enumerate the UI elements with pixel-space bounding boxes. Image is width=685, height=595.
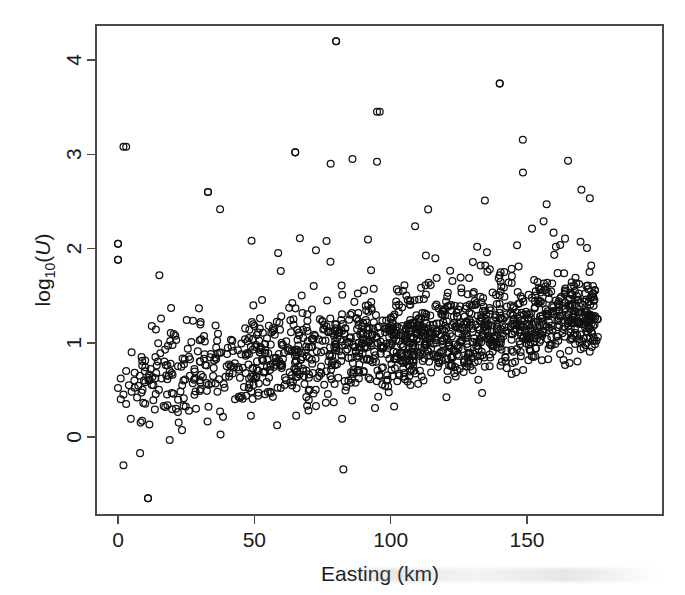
- data-point: [217, 431, 224, 438]
- data-point: [562, 235, 569, 242]
- data-point: [550, 229, 557, 236]
- data-point: [314, 375, 321, 382]
- data-point: [304, 317, 311, 324]
- data-point: [374, 158, 381, 165]
- data-point: [520, 169, 527, 176]
- data-point: [372, 405, 379, 412]
- data-point: [481, 363, 488, 370]
- data-point: [549, 280, 556, 287]
- data-point: [204, 418, 211, 425]
- x-axis-ticks: [118, 515, 527, 524]
- x-tick-label: 150: [509, 528, 544, 551]
- data-point: [586, 195, 593, 202]
- x-tick-label: 50: [243, 528, 266, 551]
- data-point: [324, 297, 331, 304]
- x-axis-tick-labels: 050100150: [112, 528, 544, 551]
- plot-canvas: 050100150 01234 Easting (km) log10(U): [0, 0, 685, 595]
- data-point: [324, 391, 331, 398]
- data-point: [259, 297, 266, 304]
- y-tick-label: 4: [62, 54, 85, 66]
- data-point: [137, 450, 144, 457]
- data-point: [519, 136, 526, 143]
- data-point: [433, 275, 440, 282]
- data-point: [501, 293, 508, 300]
- data-point: [348, 310, 355, 317]
- data-point: [250, 302, 257, 309]
- y-tick-label: 0: [62, 431, 85, 443]
- y-tick-label: 1: [62, 337, 85, 349]
- data-point: [338, 282, 345, 289]
- data-point: [370, 285, 377, 292]
- data-point: [415, 380, 422, 387]
- data-point: [123, 368, 130, 375]
- data-point: [565, 347, 572, 354]
- data-point: [351, 298, 358, 305]
- data-point: [354, 290, 361, 297]
- data-point: [361, 287, 368, 294]
- data-point: [538, 357, 545, 364]
- data-point: [551, 251, 558, 258]
- data-point: [474, 243, 481, 250]
- data-point: [196, 305, 203, 312]
- data-point: [496, 80, 503, 87]
- data-point: [403, 292, 410, 299]
- data-point: [194, 348, 201, 355]
- data-point: [215, 330, 222, 337]
- y-tick-label: 2: [62, 243, 85, 255]
- data-point: [298, 292, 305, 299]
- data-point: [179, 427, 186, 434]
- x-tick-label: 0: [112, 528, 124, 551]
- data-point: [508, 371, 515, 378]
- data-point: [578, 186, 585, 193]
- data-point: [327, 258, 334, 265]
- y-axis-title: log10(U): [31, 234, 58, 307]
- data-point: [428, 369, 435, 376]
- data-point: [214, 337, 221, 344]
- data-point: [391, 403, 398, 410]
- data-point: [561, 270, 568, 277]
- x-tick-label: 100: [373, 528, 408, 551]
- data-point: [296, 235, 303, 242]
- data-point: [367, 376, 374, 383]
- plot-box-border: [96, 25, 663, 515]
- data-point: [416, 296, 423, 303]
- data-point: [278, 313, 285, 320]
- y-tick-label: 3: [62, 148, 85, 160]
- data-point: [327, 160, 334, 167]
- data-point: [484, 249, 491, 256]
- data-point: [120, 462, 127, 469]
- data-point: [584, 245, 591, 252]
- data-point: [275, 250, 282, 257]
- data-point: [146, 421, 153, 428]
- data-point: [340, 466, 347, 473]
- data-point: [210, 373, 217, 380]
- data-point: [166, 437, 173, 444]
- data-point: [557, 242, 564, 249]
- data-points-layer: [115, 38, 602, 502]
- data-point: [466, 309, 473, 316]
- data-point: [210, 365, 217, 372]
- data-point: [117, 375, 124, 382]
- data-point: [168, 305, 175, 312]
- data-point: [339, 291, 346, 298]
- data-point: [586, 269, 593, 276]
- data-point: [177, 388, 184, 395]
- data-point: [321, 381, 328, 388]
- data-point: [423, 252, 430, 259]
- data-point: [248, 237, 255, 244]
- data-point: [156, 272, 163, 279]
- data-point: [301, 381, 308, 388]
- data-point: [151, 406, 158, 413]
- data-point: [257, 315, 264, 322]
- y-axis-tick-labels: 01234: [62, 54, 85, 443]
- data-point: [503, 365, 510, 372]
- data-point: [349, 156, 356, 163]
- data-point: [330, 399, 337, 406]
- data-point: [155, 340, 162, 347]
- data-point: [242, 325, 249, 332]
- data-point: [136, 372, 143, 379]
- data-point: [508, 273, 515, 280]
- data-point: [513, 369, 520, 376]
- data-point: [217, 206, 224, 213]
- data-point: [310, 283, 317, 290]
